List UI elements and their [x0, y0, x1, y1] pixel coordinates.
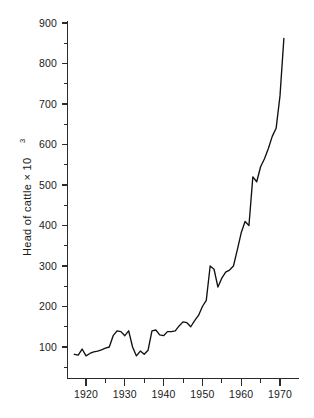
y-tick-label: 100	[39, 341, 57, 353]
y-tick-label: 900	[39, 17, 57, 29]
x-tick-label: 1940	[152, 388, 176, 400]
x-tick-label: 1970	[268, 388, 292, 400]
data-series-group	[74, 38, 284, 356]
y-tick-label: 200	[39, 300, 57, 312]
y-axis-label-text: Head of cattle × 10	[21, 158, 33, 256]
y-axis-label: Head of cattle × 10 3	[18, 139, 33, 256]
y-tick-label: 700	[39, 98, 57, 110]
x-tick-label: 1960	[229, 388, 253, 400]
chart-figure: Head of cattle × 10 3 100200300400500600…	[0, 0, 314, 418]
x-axis-ticks	[86, 379, 280, 386]
y-tick-label: 500	[39, 179, 57, 191]
y-axis-tick-labels: 100200300400500600700800900	[39, 17, 57, 353]
y-tick-label: 600	[39, 138, 57, 150]
y-axis-label-exponent: 3	[18, 139, 27, 143]
x-tick-label: 1950	[190, 388, 214, 400]
x-tick-label: 1920	[74, 388, 98, 400]
y-tick-label: 800	[39, 57, 57, 69]
y-tick-label: 400	[39, 219, 57, 231]
x-tick-label: 1930	[113, 388, 137, 400]
y-tick-label: 300	[39, 260, 57, 272]
x-axis-tick-labels: 192019301940195019601970	[74, 388, 292, 400]
data-line-1	[74, 38, 284, 356]
line-chart: Head of cattle × 10 3 100200300400500600…	[0, 0, 314, 418]
y-axis-ticks	[62, 23, 68, 367]
